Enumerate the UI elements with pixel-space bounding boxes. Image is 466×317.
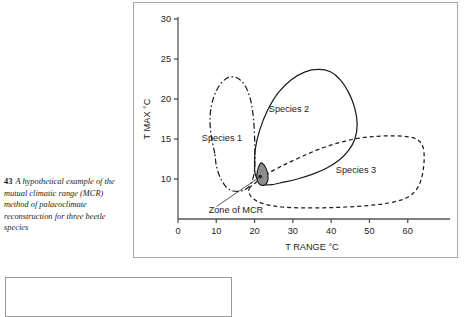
- figure-panel: 10152025300102030405060T RANGE °CT MAX °…: [133, 2, 458, 258]
- y-axis-title: T MAX °C: [142, 98, 152, 139]
- y-tick-label: 25: [161, 54, 171, 64]
- next-figure-panel: [5, 277, 232, 317]
- mcr-overlap-region: [257, 163, 268, 186]
- y-tick-label: 20: [161, 94, 171, 104]
- y-tick-label: 15: [161, 134, 171, 144]
- x-tick-label: 30: [288, 226, 298, 236]
- x-tick-label: 20: [249, 226, 259, 236]
- x-tick-label: 50: [364, 226, 374, 236]
- y-tick-label: 10: [161, 174, 171, 184]
- species-label: Species 1: [202, 133, 242, 143]
- y-tick-label: 30: [161, 14, 171, 24]
- x-tick-label: 40: [326, 226, 336, 236]
- annotation-arrow-head: [258, 175, 262, 179]
- figure-number: 43: [4, 177, 12, 186]
- x-tick-label: 0: [175, 226, 180, 236]
- zone-of-mcr-label: Zone of MCR: [209, 205, 264, 215]
- annotation-leader-line: [217, 177, 261, 207]
- x-tick-label: 10: [211, 226, 221, 236]
- species-label: Species 3: [336, 165, 376, 175]
- x-tick-label: 60: [403, 226, 413, 236]
- x-axis-title: T RANGE °C: [285, 242, 339, 252]
- mcr-scatter-plot: 10152025300102030405060T RANGE °CT MAX °…: [134, 3, 457, 257]
- species-label: Species 2: [269, 104, 309, 114]
- figure-caption: 43A hypothetical example of the mutual c…: [4, 176, 124, 234]
- figure-caption-text: A hypothetical example of the mutual cli…: [4, 177, 115, 232]
